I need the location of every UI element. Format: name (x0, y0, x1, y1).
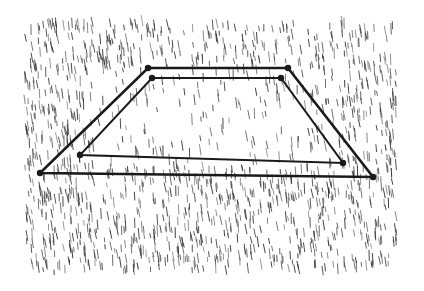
quadrat-illustration (0, 0, 424, 291)
quadrat-frame (40, 68, 373, 177)
grass-hatching (24, 16, 397, 275)
frame-outer-edge (40, 68, 373, 177)
